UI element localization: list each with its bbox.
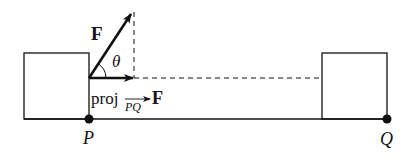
- right-block: [322, 53, 387, 119]
- point-p-label: P: [82, 128, 94, 148]
- angle-arc: [99, 64, 107, 78]
- point-q-dot: [383, 115, 392, 124]
- projection-label-vector: F: [152, 88, 163, 108]
- force-label: F: [91, 23, 103, 44]
- projection-label-prefix: proj: [91, 89, 118, 108]
- projection-label-subscript: PQ: [124, 100, 141, 114]
- projection-diagram: F θ proj PQ F P Q: [0, 0, 409, 162]
- point-p-dot: [85, 115, 94, 124]
- left-block: [24, 53, 89, 119]
- point-q-label: Q: [380, 129, 393, 149]
- angle-label: θ: [112, 52, 120, 71]
